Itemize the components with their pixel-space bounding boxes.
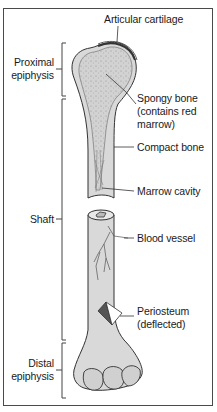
label-shaft: Shaft (8, 213, 54, 225)
lower-bone-segment (74, 210, 143, 390)
shaft-bracket (56, 99, 66, 340)
distal-epiphysis-bracket (56, 343, 66, 398)
upper-bone-segment (72, 41, 137, 198)
label-spongy-bone-3: marrow) (137, 118, 175, 130)
label-distal-epiphysis-2: epiphysis (8, 370, 54, 382)
label-marrow-cavity: Marrow cavity (137, 185, 200, 197)
label-proximal-epiphysis-2: epiphysis (8, 69, 54, 81)
label-distal-epiphysis-1: Distal (8, 357, 54, 369)
proximal-epiphysis-bracket (56, 43, 66, 96)
label-periosteum-2: (deflected) (137, 318, 186, 330)
label-spongy-bone-2: (contains red (137, 105, 196, 117)
label-compact-bone: Compact bone (137, 141, 204, 153)
label-blood-vessel: Blood vessel (137, 232, 195, 244)
label-periosteum-1: Periosteum (137, 305, 189, 317)
label-spongy-bone-1: Spongy bone (137, 92, 198, 104)
label-proximal-epiphysis-1: Proximal (8, 56, 54, 68)
label-articular-cartilage: Articular cartilage (104, 13, 183, 25)
